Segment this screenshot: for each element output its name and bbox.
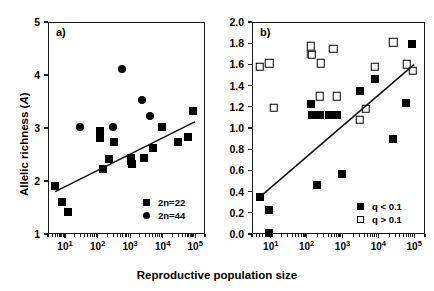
panel-b-x-minor-tick	[262, 234, 263, 237]
panel-b-marker	[269, 104, 278, 113]
panel-b-x-minor-tick	[328, 234, 329, 237]
panel-b-legend-item-label: q < 0.1	[368, 201, 402, 212]
panel-a-y-tick	[44, 180, 48, 181]
panel-b-x-minor-tick	[334, 234, 335, 237]
panel-a-y-tick	[44, 21, 48, 22]
panel-a-legend-item: 2n=22	[138, 196, 185, 209]
panel-b-x-minor-tick	[336, 234, 337, 237]
panel-b-legend-item-label: q > 0.1	[368, 214, 402, 225]
panel-a-x-tick	[130, 234, 131, 238]
panel-b-y-tick-label: 0.6	[210, 164, 244, 176]
panel-b-x-minor-tick	[317, 234, 318, 237]
panel-a-x-minor-tick	[122, 234, 123, 237]
panel-b-marker	[265, 59, 274, 68]
panel-a-x-minor-tick	[120, 234, 121, 237]
panel-a-x-minor-tick	[128, 234, 129, 237]
panel-a-y-tick	[44, 74, 48, 75]
panel-b-x-tick	[414, 234, 415, 238]
panel-b-legend-item: q > 0.1	[352, 213, 402, 226]
panel-b-x-minor-tick	[424, 234, 425, 237]
panel-b-marker	[333, 92, 342, 101]
panel-b-y-tick-label: 0.0	[210, 228, 244, 240]
panel-a-x-minor-tick	[145, 234, 146, 237]
panel-a-x-minor-tick	[204, 234, 205, 237]
panel-b-x-minor-tick	[256, 234, 257, 237]
panel-a-legend-item-label: 2n=44	[154, 210, 185, 221]
panel-a-marker	[110, 138, 118, 146]
panel-a-x-tick-label: 104	[155, 241, 170, 252]
panel-b-marker	[308, 51, 317, 60]
panel-b-x-tick-label: 105	[407, 241, 422, 252]
panel-a-x-minor-tick	[87, 234, 88, 237]
panel-b-x-minor-tick	[364, 234, 365, 237]
panel-b-x-minor-tick	[408, 234, 409, 237]
panel-b-x-tick-label: 101	[263, 241, 278, 252]
panel-a-x-minor-tick	[178, 234, 179, 237]
panel-b-marker	[329, 44, 338, 53]
panel-b-marker	[265, 229, 273, 237]
panel-b-y-tick-label: 0.2	[210, 207, 244, 219]
panel-a-legend-marker-icon	[138, 199, 154, 206]
panel-b-legend-marker-icon	[352, 203, 368, 210]
panel-a-marker	[58, 198, 66, 206]
panel-a-x-minor-tick	[152, 234, 153, 237]
panel-b-y-tick-label: 1.2	[210, 101, 244, 113]
panel-b-x-minor-tick	[251, 234, 252, 237]
panel-b-marker	[325, 111, 333, 119]
panel-a-x-tick	[97, 234, 98, 238]
figure-container: a) 12345 101102103104105 2n=222n=44 b) 0…	[0, 0, 434, 291]
panel-b-x-minor-tick	[287, 234, 288, 237]
panel-b-marker	[313, 181, 321, 189]
panel-b-marker	[256, 62, 265, 71]
panel-b-marker	[389, 38, 398, 47]
panel-b-x-tick-label: 102	[299, 241, 314, 252]
panel-a-x-minor-tick	[57, 234, 58, 237]
panel-b-x-tick	[342, 234, 343, 238]
panel-a-marker	[96, 134, 104, 142]
panel-a-x-tick-label: 102	[90, 241, 105, 252]
panel-b-y-tick	[248, 43, 252, 44]
panel-a-x-minor-tick	[80, 234, 81, 237]
panel-b-x-minor-tick	[304, 234, 305, 237]
panel-b-x-tick-label: 104	[371, 241, 386, 252]
panel-b-x-minor-tick	[301, 234, 302, 237]
panel-a-y-tick-label: 4	[6, 69, 40, 81]
panel-b-y-tick-label: 0.8	[210, 143, 244, 155]
panel-b-marker	[333, 111, 341, 119]
panel-b-x-minor-tick	[298, 234, 299, 237]
panel-b-y-tick	[248, 212, 252, 213]
panel-b-x-minor-tick	[331, 234, 332, 237]
panel-b-marker	[362, 105, 371, 114]
panel-a-marker	[146, 112, 154, 120]
y-axis-title: Allelic richness (A)	[18, 92, 30, 196]
panel-a-marker	[184, 133, 192, 141]
panel-a-marker	[158, 123, 166, 131]
panel-a-marker	[118, 65, 126, 73]
panel-b-marker	[371, 75, 379, 83]
panel-b-x-minor-tick	[389, 234, 390, 237]
panel-b-legend-item: q < 0.1	[352, 200, 402, 213]
panel-b-marker	[402, 99, 410, 107]
panel-a-x-minor-tick	[149, 234, 150, 237]
panel-a-marker	[109, 123, 117, 131]
panel-a-marker	[128, 160, 136, 168]
panel-a-x-minor-tick	[117, 234, 118, 237]
panel-b-legend: q < 0.1q > 0.1	[352, 200, 402, 226]
panel-a-marker	[138, 96, 146, 104]
panel-a-x-minor-tick	[74, 234, 75, 237]
panel-a-legend-marker-icon	[138, 212, 154, 219]
panel-a-marker	[105, 155, 113, 163]
panel-a-x-minor-tick	[193, 234, 194, 237]
panel-a-x-minor-tick	[155, 234, 156, 237]
panel-b-marker	[316, 111, 324, 119]
panel-a-marker	[99, 165, 107, 173]
panel-a-x-minor-tick	[47, 234, 48, 237]
panel-a-marker	[189, 107, 197, 115]
panel-a-x-minor-tick	[90, 234, 91, 237]
panel-a-marker	[140, 154, 148, 162]
panel-a-marker	[76, 123, 84, 131]
panel-b-x-minor-tick	[395, 234, 396, 237]
panel-a-x-minor-tick	[172, 234, 173, 237]
x-axis-title: Reproductive population size	[0, 269, 434, 281]
panel-b-x-minor-tick	[292, 234, 293, 237]
